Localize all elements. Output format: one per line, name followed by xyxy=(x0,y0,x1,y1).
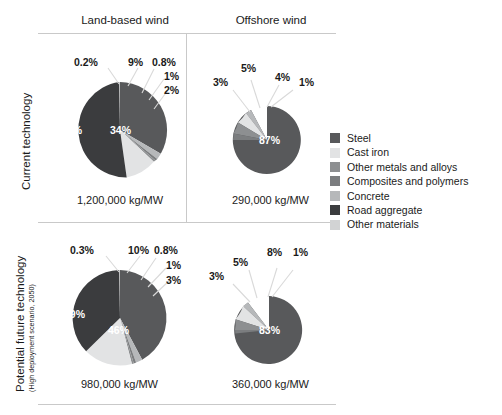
pct-other-metals-current-land: 0.8% xyxy=(152,56,176,68)
pct-cast-iron-future-offshore: 8% xyxy=(267,246,282,258)
column-header-offshore-wind: Offshore wind xyxy=(208,14,334,26)
legend-item-composites-and-polymers: Composites and polymers xyxy=(330,174,468,188)
wind-turbine-material-composition-figure: Land-based wind Offshore wind Current te… xyxy=(0,0,502,415)
pie-chart-current-offshore xyxy=(205,52,335,187)
row-label-potential-future-technology: Potential future technology xyxy=(14,256,26,392)
total-current-offshore: 290,000 kg/MW xyxy=(193,194,348,206)
row-label-current-technology: Current technology xyxy=(20,93,32,190)
legend-item-steel: Steel xyxy=(330,131,468,145)
leader-lines xyxy=(233,80,293,112)
legend-label-composites-and-polymers: Composites and polymers xyxy=(347,176,468,187)
legend-label-other-materials: Other materials xyxy=(347,219,419,230)
pie-panel-future-land-based: 39% 46% 0.3% 10% 0.8% 1% 3% 980,000 kg/M… xyxy=(50,240,190,400)
pct-other-metals-future-offshore: 5% xyxy=(233,256,248,268)
pct-concrete-current-land: 2% xyxy=(164,84,179,96)
legend-item-cast-iron: Cast iron xyxy=(330,145,468,159)
pct-cast-iron-future-land: 10% xyxy=(128,244,149,256)
pct-other-metals-future-land: 0.8% xyxy=(154,244,178,256)
legend-swatch-concrete xyxy=(330,191,340,201)
pct-steel-future-offshore: 83% xyxy=(259,324,280,336)
legend-swatch-other-materials xyxy=(330,220,340,230)
legend-item-road-aggregate: Road aggregate xyxy=(330,203,468,217)
legend-label-concrete: Concrete xyxy=(347,191,390,202)
pct-steel-current-offshore: 87% xyxy=(259,134,280,146)
pct-road-aggregate-current-land: 53% xyxy=(61,124,82,136)
legend-item-other-metals-and-alloys: Other metals and alloys xyxy=(330,160,468,174)
column-header-land-based-wind: Land-based wind xyxy=(62,14,188,26)
legend-item-other-materials: Other materials xyxy=(330,217,468,231)
pie-chart-future-offshore xyxy=(205,240,335,380)
legend-label-other-metals-and-alloys: Other metals and alloys xyxy=(347,162,457,173)
pct-steel-current-land: 34% xyxy=(110,124,131,136)
legend-item-concrete: Concrete xyxy=(330,189,468,203)
divider-bottom xyxy=(38,404,336,405)
pct-composites-current-land: 1% xyxy=(164,70,179,82)
pct-cast-iron-current-offshore: 5% xyxy=(241,62,256,74)
legend: Steel Cast iron Other metals and alloys … xyxy=(330,131,468,232)
pct-composites-future-land: 1% xyxy=(166,259,181,271)
legend-label-steel: Steel xyxy=(347,133,371,144)
legend-swatch-other-metals-and-alloys xyxy=(330,162,340,172)
pct-other-materials-current-land: 0.2% xyxy=(74,56,98,68)
row-label-potential-future-technology-sublabel: (High deployment scenario, 2050) xyxy=(27,284,36,392)
leader-lines xyxy=(233,268,293,302)
divider-middle xyxy=(38,222,336,223)
legend-label-cast-iron: Cast iron xyxy=(347,147,389,158)
pct-other-materials-future-land: 0.3% xyxy=(70,244,94,256)
total-future-land-based: 980,000 kg/MW xyxy=(42,378,197,390)
pct-composites-current-offshore: 1% xyxy=(299,76,314,88)
pct-concrete-future-land: 3% xyxy=(166,274,181,286)
pct-road-aggregate-future-land: 39% xyxy=(64,308,85,320)
pie-panel-current-land-based: 53% 34% 0.2% 9% 0.8% 1% 2% 1,200,000 kg/… xyxy=(50,52,190,212)
pct-concrete-future-offshore: 3% xyxy=(209,270,224,282)
pie-panel-current-offshore: 87% 3% 5% 4% 1% 290,000 kg/MW xyxy=(205,52,335,212)
pct-other-metals-current-offshore: 4% xyxy=(275,71,290,83)
pct-steel-future-land: 46% xyxy=(108,324,129,336)
pct-concrete-current-offshore: 3% xyxy=(213,76,228,88)
legend-label-road-aggregate: Road aggregate xyxy=(347,205,422,216)
divider-top xyxy=(38,33,336,34)
pct-composites-future-offshore: 1% xyxy=(293,246,308,258)
legend-swatch-steel xyxy=(330,133,340,143)
total-future-offshore: 360,000 kg/MW xyxy=(193,378,348,390)
legend-swatch-composites-and-polymers xyxy=(330,176,340,186)
legend-swatch-cast-iron xyxy=(330,148,340,158)
pct-cast-iron-current-land: 9% xyxy=(128,56,143,68)
total-current-land-based: 1,200,000 kg/MW xyxy=(40,194,200,206)
pie-panel-future-offshore: 83% 3% 5% 8% 1% 360,000 kg/MW xyxy=(205,240,335,400)
legend-swatch-road-aggregate xyxy=(330,205,340,215)
